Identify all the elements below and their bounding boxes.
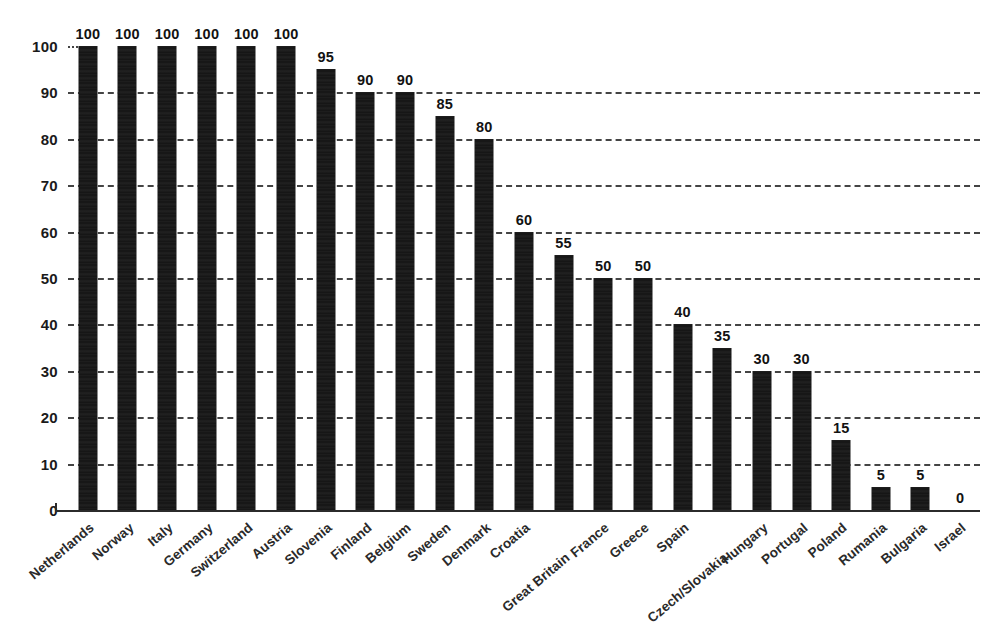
bar[interactable]	[197, 46, 216, 510]
x-axis-tick: Poland	[821, 512, 861, 636]
bar[interactable]	[594, 278, 613, 510]
bar-value-label: 30	[754, 351, 771, 367]
x-axis-tick: Belgium	[385, 512, 425, 636]
bar-group: 80	[465, 46, 505, 510]
x-axis-tick-label: Italy	[145, 520, 176, 549]
bar[interactable]	[356, 92, 375, 510]
bar[interactable]	[158, 46, 177, 510]
x-axis-tick: Portugal	[782, 512, 822, 636]
bar-group: 35	[702, 46, 742, 510]
bar-group: 5	[901, 46, 941, 510]
bar-group: 40	[663, 46, 703, 510]
bar-value-label: 35	[714, 328, 731, 344]
bar-value-label: 90	[397, 72, 414, 88]
bar[interactable]	[832, 440, 851, 510]
bar[interactable]	[475, 139, 494, 510]
bar[interactable]	[752, 371, 771, 510]
y-axis-tick-label: 60	[12, 223, 58, 240]
y-axis-tick-label: 50	[12, 270, 58, 287]
y-axis-tick-label: 20	[12, 409, 58, 426]
x-axis-tick: Hungary	[742, 512, 782, 636]
bar-value-label: 55	[555, 235, 572, 251]
x-axis: NetherlandsNorwayItalyGermanySwitzerland…	[68, 512, 980, 636]
x-axis-tick: Rumania	[861, 512, 901, 636]
bar-group: 100	[187, 46, 227, 510]
bar-value-label: 100	[274, 26, 299, 42]
bar-group: 55	[544, 46, 584, 510]
y-axis-tick-label: 0	[12, 502, 58, 519]
bar[interactable]	[78, 46, 97, 510]
bar-group: 30	[782, 46, 822, 510]
bar-value-label: 5	[916, 467, 924, 483]
bar[interactable]	[396, 92, 415, 510]
x-axis-tick: Israel	[940, 512, 980, 636]
bar[interactable]	[514, 232, 533, 510]
x-axis-tick: France	[583, 512, 623, 636]
bar-value-label: 40	[674, 304, 691, 320]
bar[interactable]	[554, 255, 573, 510]
bar-group: 15	[821, 46, 861, 510]
bar[interactable]	[792, 371, 811, 510]
bar-group: 100	[227, 46, 267, 510]
bar[interactable]	[435, 116, 454, 510]
y-axis: 0102030405060708090100	[0, 0, 58, 636]
bar-value-label: 50	[595, 258, 612, 274]
x-axis-tick: Czech/Slovakia	[702, 512, 742, 636]
bar-group: 100	[147, 46, 187, 510]
y-axis-tick-label: 40	[12, 316, 58, 333]
bar-group: 0	[940, 46, 980, 510]
y-axis-tick-label: 90	[12, 84, 58, 101]
bar[interactable]	[237, 46, 256, 510]
bar-value-label: 85	[436, 96, 453, 112]
bar-value-label: 30	[793, 351, 810, 367]
x-axis-tick: Norway	[108, 512, 148, 636]
bar-value-label: 15	[833, 420, 850, 436]
y-axis-tick-label: 10	[12, 455, 58, 472]
x-axis-tick: Slovenia	[306, 512, 346, 636]
bar[interactable]	[633, 278, 652, 510]
bar-value-label: 100	[194, 26, 219, 42]
bar[interactable]	[673, 324, 692, 510]
bar-value-label: 100	[115, 26, 140, 42]
bar-value-label: 80	[476, 119, 493, 135]
x-axis-tick: Denmark	[465, 512, 505, 636]
bar-value-label: 5	[877, 467, 885, 483]
bar-group: 100	[108, 46, 148, 510]
bar-group: 90	[385, 46, 425, 510]
bar[interactable]	[277, 46, 296, 510]
bar[interactable]	[713, 348, 732, 510]
x-axis-tick: Switzerland	[227, 512, 267, 636]
bar[interactable]	[871, 487, 890, 510]
bar[interactable]	[118, 46, 137, 510]
y-axis-tick-label: 30	[12, 362, 58, 379]
x-axis-tick: Bulgaria	[901, 512, 941, 636]
bar-group: 60	[504, 46, 544, 510]
x-axis-tick: Finland	[346, 512, 386, 636]
bar[interactable]	[911, 487, 930, 510]
bar-group: 95	[306, 46, 346, 510]
bar-group: 50	[623, 46, 663, 510]
x-axis-tick: Sweden	[425, 512, 465, 636]
y-axis-origin-tick	[55, 503, 57, 512]
bar-group: 100	[266, 46, 306, 510]
bar-value-label: 100	[75, 26, 100, 42]
x-axis-tick: Netherlands	[68, 512, 108, 636]
bar-chart: 0102030405060708090100 10010010010010010…	[0, 0, 997, 636]
bar-value-label: 100	[155, 26, 180, 42]
x-axis-tick: Great Britain	[544, 512, 584, 636]
bar-value-label: 50	[635, 258, 652, 274]
bar[interactable]	[316, 69, 335, 510]
plot-area: 1001001001001001009590908580605550504035…	[68, 46, 980, 510]
y-axis-tick-label: 80	[12, 130, 58, 147]
bar-group: 5	[861, 46, 901, 510]
bar-group: 100	[68, 46, 108, 510]
bar-group: 90	[346, 46, 386, 510]
bar-value-label: 100	[234, 26, 259, 42]
x-axis-tick: Austria	[266, 512, 306, 636]
y-axis-tick-label: 70	[12, 177, 58, 194]
bar-group: 50	[583, 46, 623, 510]
bar-value-label: 90	[357, 72, 374, 88]
y-axis-tick-label: 100	[12, 38, 58, 55]
bar-value-label: 95	[317, 49, 334, 65]
bar-group: 30	[742, 46, 782, 510]
